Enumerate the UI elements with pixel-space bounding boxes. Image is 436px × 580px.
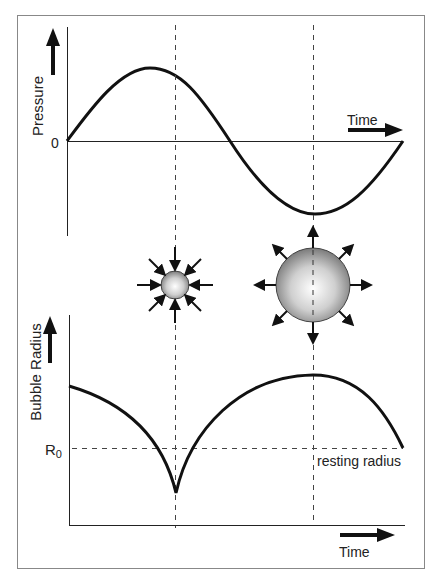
- pressure-panel: Pressure 0 Time: [29, 27, 403, 236]
- figure-frame: [18, 16, 425, 569]
- pressure-zero-label: 0: [51, 135, 59, 151]
- r0-label: R0: [45, 441, 62, 460]
- radius-curve: [69, 375, 403, 493]
- top-time-label: Time: [347, 112, 378, 128]
- resting-radius-label: resting radius: [317, 453, 401, 469]
- pressure-up-arrow-icon: [46, 28, 60, 75]
- expanded-bubble: [259, 231, 367, 339]
- radius-axis-label: Bubble Radius: [27, 323, 44, 421]
- radius-up-arrow-icon: [43, 316, 57, 363]
- bottom-time-label: Time: [339, 544, 370, 560]
- radius-panel: Bubble Radius R0 resting radius Time: [27, 315, 405, 560]
- compressed-bubble: [137, 247, 213, 323]
- bottom-time-arrow-icon: [340, 528, 395, 542]
- pressure-axis-label: Pressure: [29, 76, 46, 136]
